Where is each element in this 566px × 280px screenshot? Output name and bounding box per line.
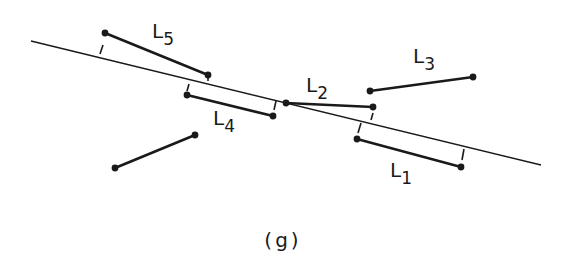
segment-line: [187, 95, 273, 116]
endpoint-dot: [283, 100, 290, 107]
projection-tick: [462, 149, 464, 160]
endpoint-dot: [192, 132, 199, 139]
endpoint-dot: [102, 30, 109, 37]
endpoint-dot: [270, 113, 277, 120]
segment-label-l5: L5: [152, 19, 174, 49]
segment-line: [115, 135, 195, 168]
segment-label-l2: L2: [306, 73, 328, 103]
segment-label-l4: L4: [213, 106, 235, 136]
segment-line: [357, 139, 461, 167]
endpoint-dot: [354, 136, 361, 143]
endpoint-dot: [458, 164, 465, 171]
segment-l3: [367, 74, 477, 95]
projection-tick: [371, 113, 373, 120]
segment-label-l1: L1: [390, 158, 412, 188]
figure-caption: (g): [0, 228, 566, 252]
endpoint-dot: [367, 88, 374, 95]
segment-l1: [354, 123, 465, 170]
endpoint-dot: [370, 104, 377, 111]
segment-unlabeled: [112, 132, 199, 172]
endpoint-dot: [112, 165, 119, 172]
projection-tick: [187, 84, 189, 91]
projection-tick: [274, 101, 276, 110]
projection-tick: [358, 123, 361, 133]
segment-l2: [283, 100, 377, 120]
endpoint-dot: [470, 74, 477, 81]
projection-tick: [100, 45, 103, 54]
endpoint-dot: [184, 92, 191, 99]
segment-line: [370, 77, 473, 91]
segment-label-l3: L3: [413, 44, 435, 74]
